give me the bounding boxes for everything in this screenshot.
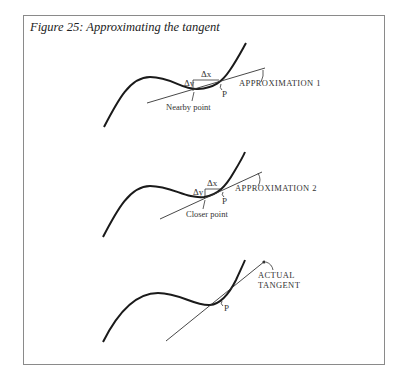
tangent-label: TANGENT [258,280,301,290]
dx-label: Δx [201,69,212,79]
nearby-point-label: Nearby point [166,102,211,112]
panel-approximation-1: Δy Δx P Nearby point APPROXIMATION 1 [104,43,321,127]
approximation-2-label: APPROXIMATION 2 [235,183,317,193]
curve [103,260,245,342]
tangent-line [166,261,265,341]
panel-actual-tangent: P ACTUAL TANGENT [103,260,301,342]
approximation-1-label: APPROXIMATION 1 [239,78,321,88]
curve [104,43,246,127]
dy-label: Δy [193,187,204,197]
dy-label: Δy [184,78,195,88]
panel-approximation-2: Δy Δx P Closer point APPROXIMATION 2 [103,152,317,237]
p-label: P [222,89,227,99]
p-label: P [224,303,229,313]
curve [103,152,245,237]
closer-point-label: Closer point [186,209,228,219]
dx-label: Δx [207,178,218,188]
actual-label: ACTUAL [258,270,295,280]
p-label: P [222,196,227,206]
tangent-diagram: Δy Δx P Nearby point APPROXIMATION 1 Δy … [0,0,407,382]
